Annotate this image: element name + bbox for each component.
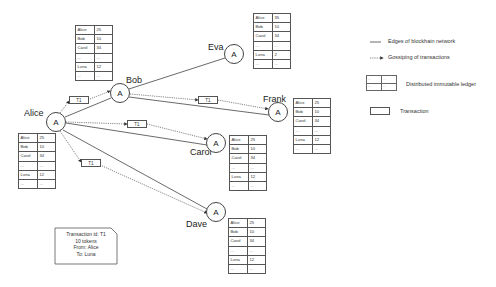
ledger-name: Alice xyxy=(76,26,95,35)
ledger-name: Carol xyxy=(19,152,38,161)
ledger-name: Bob xyxy=(76,35,95,44)
ledger-row: Luna12 xyxy=(229,255,266,264)
ledger-row: ...... xyxy=(19,161,56,170)
ledger-row: ...... xyxy=(76,53,113,62)
ledger-name: Bob xyxy=(230,145,249,154)
legend-ledger-cell: ... xyxy=(382,83,397,91)
ledger-value: 34 xyxy=(313,117,331,126)
ledger-value: 35 xyxy=(273,14,291,23)
ledger-eva: Alice35 Bob10 Carol34 ...... Luna2 .....… xyxy=(253,13,291,69)
ledger-row: Carol34 xyxy=(19,152,56,161)
ledger-name: Bob xyxy=(229,228,248,237)
legend-ledger-icon: ...... ...... xyxy=(366,75,397,91)
node-glyph: A xyxy=(275,108,280,117)
ledger-row: Alice25 xyxy=(19,134,56,143)
ledger-value: 10 xyxy=(38,143,56,152)
ledger-row: Bob10 xyxy=(294,108,331,117)
ledger-value: ... xyxy=(248,264,266,273)
ledger-value: 10 xyxy=(313,108,331,117)
ledger-row: ...... xyxy=(230,163,267,172)
transaction-box-alice-dave[interactable]: T1 xyxy=(81,159,101,167)
node-dave[interactable]: A xyxy=(206,202,226,222)
ledger-name: Luna xyxy=(76,62,95,71)
ledger-row: Carol34 xyxy=(230,154,267,163)
transaction-box-bob-frank[interactable]: T1 xyxy=(198,96,218,104)
ledger-name: ... xyxy=(76,71,95,80)
ledger-value: ... xyxy=(273,59,291,68)
ledger-row: Bob10 xyxy=(254,23,291,32)
ledger-carol: Alice25 Bob10 Carol34 ...... Luna12 ....… xyxy=(229,135,267,191)
ledger-name: Luna xyxy=(229,255,248,264)
transaction-box-alice-bob[interactable]: T1 xyxy=(69,96,89,104)
ledger-value: ... xyxy=(95,71,113,80)
ledger-name: ... xyxy=(19,179,38,188)
ledger-name: Luna xyxy=(294,135,313,144)
ledger-value: 10 xyxy=(248,228,266,237)
ledger-value: 10 xyxy=(95,35,113,44)
note-line-to: To: Luna xyxy=(55,251,117,258)
gossip-t1-dave xyxy=(100,165,207,213)
ledger-name: Carol xyxy=(76,44,95,53)
ledger-row: Luna12 xyxy=(294,135,331,144)
ledger-value: ... xyxy=(248,246,266,255)
ledger-row: ...... xyxy=(229,246,266,255)
ledger-value: 25 xyxy=(313,99,331,108)
ledger-row: Luna12 xyxy=(76,62,113,71)
ledger-row: ...... xyxy=(229,264,266,273)
node-eva[interactable]: A xyxy=(224,44,244,64)
gossip-t1-frank xyxy=(218,100,268,109)
ledger-row: Alice25 xyxy=(229,219,266,228)
ledger-name: ... xyxy=(254,59,273,68)
ledger-row: Alice35 xyxy=(254,14,291,23)
ledger-value: 25 xyxy=(38,134,56,143)
transaction-box-alice-carol[interactable]: T1 xyxy=(127,120,147,128)
ledger-name: ... xyxy=(230,163,249,172)
ledger-value: ... xyxy=(38,179,56,188)
ledger-bob: Alice25 Bob10 Carol34 ...... Luna12 ....… xyxy=(75,25,113,81)
ledger-dave: Alice25 Bob10 Carol34 ...... Luna12 ....… xyxy=(228,218,266,274)
ledger-name: Bob xyxy=(294,108,313,117)
node-bob[interactable]: A xyxy=(110,83,130,103)
ledger-value: ... xyxy=(313,126,331,135)
node-carol[interactable]: A xyxy=(206,133,226,153)
ledger-name: Alice xyxy=(294,99,313,108)
ledger-value: 25 xyxy=(248,219,266,228)
ledger-value: 12 xyxy=(313,135,331,144)
ledger-value: 34 xyxy=(273,32,291,41)
node-alice[interactable]: A xyxy=(46,112,66,132)
ledger-name: ... xyxy=(229,246,248,255)
legend-ledger-cell: ... xyxy=(367,76,382,84)
ledger-name: ... xyxy=(254,41,273,50)
ledger-frank: Alice25 Bob10 Carol34 ...... Luna12 ....… xyxy=(293,98,331,154)
ledger-name: ... xyxy=(294,126,313,135)
ledger-name: Alice xyxy=(230,136,249,145)
gossip-alice-t1-carol xyxy=(66,122,127,124)
ledger-value: 10 xyxy=(249,145,267,154)
node-frank[interactable]: A xyxy=(268,102,288,122)
ledger-row: Bob10 xyxy=(19,143,56,152)
ledger-value: ... xyxy=(95,53,113,62)
ledger-name: ... xyxy=(230,181,249,190)
ledger-row: ...... xyxy=(76,71,113,80)
ledger-row: ...... xyxy=(254,41,291,50)
legend-ledger-label: Distributed immutable ledger xyxy=(406,81,476,87)
ledger-row: Carol34 xyxy=(76,44,113,53)
ledger-value: 34 xyxy=(95,44,113,53)
ledger-row: Luna12 xyxy=(19,170,56,179)
ledger-value: 25 xyxy=(95,26,113,35)
ledger-value: 12 xyxy=(249,172,267,181)
legend-transaction-icon xyxy=(370,107,390,115)
ledger-name: Carol xyxy=(229,237,248,246)
transaction-note: Transaction id: T1 10 tokens From: Alice… xyxy=(55,231,117,257)
ledger-name: Luna xyxy=(254,50,273,59)
gossip-alice-t1-dave xyxy=(60,131,81,162)
ledger-name: ... xyxy=(229,264,248,273)
ledger-name: Carol xyxy=(294,117,313,126)
ledger-row: Carol34 xyxy=(254,32,291,41)
ledger-row: ...... xyxy=(19,179,56,188)
ledger-value: 25 xyxy=(249,136,267,145)
ledger-row: Alice25 xyxy=(76,26,113,35)
ledger-name: ... xyxy=(19,161,38,170)
ledger-row: Alice25 xyxy=(294,99,331,108)
ledger-name: Bob xyxy=(254,23,273,32)
